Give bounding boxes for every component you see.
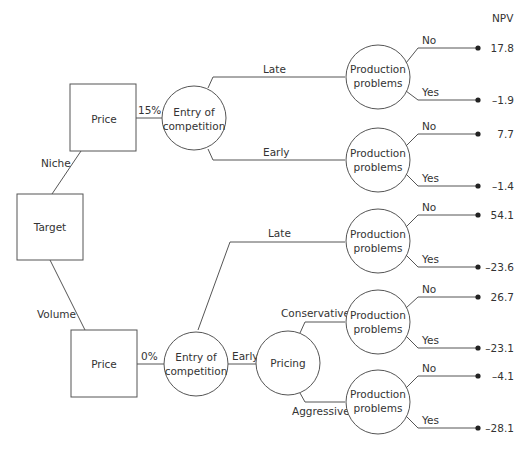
svg-text:Yes: Yes [421, 414, 439, 426]
price-label-bottom: Price [91, 358, 117, 370]
svg-text:No: No [422, 362, 436, 374]
svg-text:–23.6: –23.6 [485, 261, 514, 273]
production-node-5: Production problems [346, 370, 410, 434]
entry-chance-node-bottom [164, 332, 228, 396]
branch-early-top: Early [263, 146, 290, 158]
branch-aggressive: Aggressive [292, 405, 350, 417]
branch-late-top: Late [263, 63, 286, 75]
svg-text:Production: Production [350, 147, 406, 159]
svg-text:problems: problems [354, 161, 403, 173]
entry-label-top-1: Entry of [173, 106, 215, 118]
svg-text:No: No [422, 283, 436, 295]
svg-text:Yes: Yes [421, 172, 439, 184]
svg-text:Production: Production [350, 228, 406, 240]
branch-niche: Niche [41, 157, 71, 169]
svg-text:problems: problems [354, 402, 403, 414]
svg-text:problems: problems [354, 242, 403, 254]
production-node-4: Production problems [346, 290, 410, 354]
price-label-top: Price [91, 113, 117, 125]
outcome-labels: No Yes No Yes No Yes No Yes No Yes [421, 34, 439, 426]
production-node-3: Production problems [346, 209, 410, 273]
svg-text:No: No [422, 120, 436, 132]
branch-conservative: Conservative [281, 307, 350, 319]
branch-late-bottom: Late [268, 227, 291, 239]
production-node-1: Production problems [346, 45, 410, 109]
svg-text:Yes: Yes [421, 253, 439, 265]
svg-text:–1.4: –1.4 [492, 180, 514, 192]
svg-text:Production: Production [350, 63, 406, 75]
svg-text:No: No [422, 34, 436, 46]
svg-text:–1.9: –1.9 [492, 94, 514, 106]
target-label: Target [33, 221, 66, 233]
svg-text:–4.1: –4.1 [492, 370, 514, 382]
svg-text:No: No [422, 201, 436, 213]
outcome-dots [475, 45, 480, 430]
npv-values: 17.8 –1.9 7.7 –1.4 54.1 –23.6 26.7 –23.1… [485, 42, 514, 434]
entry-label-bottom-2: competition [165, 365, 228, 377]
entry-label-bottom-1: Entry of [175, 351, 217, 363]
entry-label-top-2: competition [163, 120, 226, 132]
branch-0pct: 0% [141, 350, 158, 362]
svg-text:–23.1: –23.1 [485, 342, 514, 354]
decision-tree: NPV Niche Volume Target Price 15% Entry … [0, 0, 529, 449]
branch-15pct: 15% [138, 104, 161, 116]
svg-text:–28.1: –28.1 [485, 422, 514, 434]
svg-text:problems: problems [354, 323, 403, 335]
outcome-branches [406, 48, 478, 428]
svg-text:problems: problems [354, 77, 403, 89]
svg-text:17.8: 17.8 [491, 42, 514, 54]
svg-text:26.7: 26.7 [491, 291, 514, 303]
npv-header: NPV [492, 12, 514, 24]
svg-text:Yes: Yes [421, 334, 439, 346]
svg-text:Production: Production [350, 309, 406, 321]
svg-text:7.7: 7.7 [497, 128, 514, 140]
branch-volume: Volume [37, 308, 76, 320]
svg-text:54.1: 54.1 [491, 209, 514, 221]
branch-early-bottom: Early [232, 350, 259, 362]
svg-text:Production: Production [350, 388, 406, 400]
svg-text:Yes: Yes [421, 86, 439, 98]
pricing-label: Pricing [270, 357, 305, 369]
entry-chance-node-top [162, 86, 226, 150]
production-node-2: Production problems [346, 128, 410, 192]
